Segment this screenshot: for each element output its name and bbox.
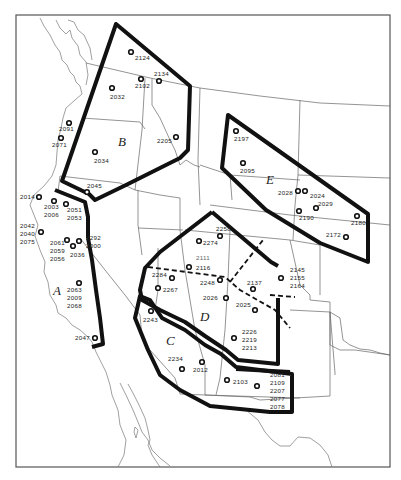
site-label: 2226 xyxy=(242,328,257,335)
site-2026: 2026 xyxy=(203,294,228,301)
site-2081: 20812109220720772078 xyxy=(255,371,286,410)
site-2003: 20032006 xyxy=(44,199,59,218)
site-marker-icon xyxy=(232,336,237,341)
site-marker-icon xyxy=(170,276,175,281)
site-label: 2034 xyxy=(94,157,109,164)
site-label: 2053 xyxy=(67,214,82,221)
site-2180: 2180 xyxy=(351,214,366,226)
site-marker-icon xyxy=(279,276,284,281)
site-label: 2026 xyxy=(203,294,218,301)
site-label: 2103 xyxy=(233,378,248,385)
state-boundaries xyxy=(58,78,390,400)
site-label: 2045 xyxy=(87,182,102,189)
site-2025: 2025 xyxy=(236,301,257,312)
site-marker-icon xyxy=(129,50,134,55)
site-label: 2164 xyxy=(290,282,305,289)
site-label: 2063 xyxy=(67,286,82,293)
site-label: 2009 xyxy=(67,294,82,301)
site-2103: 2103 xyxy=(225,378,249,385)
site-2071: 2071 xyxy=(52,136,67,148)
site-label: 2040 xyxy=(20,230,35,237)
site-marker-icon xyxy=(218,234,223,239)
site-2137: 2137 xyxy=(247,279,262,291)
site-2061: 206120592056 xyxy=(50,238,69,262)
site-2051: 20512053 xyxy=(64,202,83,221)
site-marker-icon xyxy=(180,367,185,372)
site-label: 2006 xyxy=(44,211,59,218)
site-2284: 2284 xyxy=(152,271,174,280)
site-marker-icon xyxy=(174,135,179,140)
site-marker-icon xyxy=(297,209,302,214)
site-2274: 2274 xyxy=(197,239,219,246)
site-marker-icon xyxy=(37,195,42,200)
site-2095: 2095 xyxy=(240,161,255,174)
site-marker-icon xyxy=(139,77,144,82)
region-label-d: D xyxy=(199,309,210,324)
site-label: 2077 xyxy=(270,395,285,402)
site-label: 2137 xyxy=(247,279,262,286)
site-label: 2036 xyxy=(70,251,85,258)
site-2032: 2032 xyxy=(110,86,126,100)
site-2102: 2102 xyxy=(135,77,150,89)
site-label: 2012 xyxy=(193,366,208,373)
site-marker-icon xyxy=(253,308,258,313)
site-label: 2267 xyxy=(163,286,178,293)
site-label: 2061 xyxy=(50,239,65,246)
site-label: 2205 xyxy=(157,137,172,144)
site-2111: 2111 xyxy=(196,254,210,261)
site-2172: 2172 xyxy=(326,231,348,239)
site-label: 2042 xyxy=(20,222,35,229)
site-label: 2047 xyxy=(75,334,90,341)
site-marker-icon xyxy=(241,161,246,166)
site-2028: 2028 xyxy=(278,189,300,196)
red-river-border xyxy=(330,312,390,355)
site-label: 2102 xyxy=(135,82,150,89)
site-marker-icon xyxy=(197,239,202,244)
site-marker-icon xyxy=(218,278,223,283)
site-label: 2234 xyxy=(168,355,183,362)
site-2014: 2014 xyxy=(20,193,41,200)
site-label: 2207 xyxy=(270,387,285,394)
site-2036: 2036 xyxy=(70,244,85,258)
site-label: 2219 xyxy=(242,336,257,343)
baja-coast xyxy=(120,383,170,466)
site-marker-icon xyxy=(149,309,154,314)
site-2047: 2047 xyxy=(75,334,97,341)
sample-sites: 2124213421022032209120712205203420452014… xyxy=(20,50,366,410)
site-2029: 2029 xyxy=(314,200,334,210)
site-2190: 2190 xyxy=(297,209,315,221)
puget-sound-coast xyxy=(56,20,92,85)
site-2063: 206320092068 xyxy=(67,281,82,309)
site-marker-icon xyxy=(303,189,308,194)
site-marker-icon xyxy=(187,265,192,270)
site-2292: 22922000 xyxy=(77,234,102,249)
site-label: 2248 xyxy=(200,279,215,286)
site-label: 2116 xyxy=(196,264,211,271)
site-label: 2059 xyxy=(50,247,65,254)
site-label: 2014 xyxy=(20,193,35,200)
site-label: 2155 xyxy=(290,274,305,281)
site-2024: 2024 xyxy=(303,189,326,199)
site-2042: 204220402075 xyxy=(20,222,43,245)
site-label: 2028 xyxy=(278,189,293,196)
site-label: 2258 xyxy=(216,225,231,232)
site-marker-icon xyxy=(255,384,260,389)
site-label: 2024 xyxy=(310,192,325,199)
mexico-coast xyxy=(246,410,332,467)
site-marker-icon xyxy=(93,150,98,155)
site-2258: 2258 xyxy=(216,225,231,238)
region-label-a: A xyxy=(52,283,61,298)
site-2045: 2045 xyxy=(85,182,103,194)
site-2116: 2116 xyxy=(187,264,211,271)
site-label: 2111 xyxy=(196,254,210,261)
site-label: 2000 xyxy=(86,242,101,249)
region-b-outline xyxy=(62,24,190,200)
site-label: 2003 xyxy=(44,203,59,210)
site-label: 2071 xyxy=(52,141,67,148)
site-marker-icon xyxy=(225,378,230,383)
canada-border xyxy=(86,63,390,106)
site-2226: 222622192213 xyxy=(232,328,258,351)
site-marker-icon xyxy=(344,235,349,240)
site-label: 2029 xyxy=(318,200,333,207)
site-label: 2292 xyxy=(86,234,101,241)
